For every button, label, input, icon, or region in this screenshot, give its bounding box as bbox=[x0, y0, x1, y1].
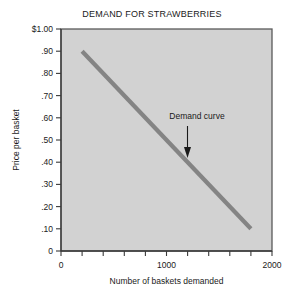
x-tick-label: 0 bbox=[59, 260, 64, 270]
y-tick-label: .40 bbox=[41, 157, 53, 167]
y-tick-label: .60 bbox=[41, 113, 53, 123]
x-tick-label: 1000 bbox=[157, 260, 176, 270]
demand-for-strawberries-chart: DEMAND FOR STRAWBERRIES 0 .10 .20 .30 .4… bbox=[0, 0, 300, 302]
x-tick-label: 2000 bbox=[263, 260, 282, 270]
chart-title: DEMAND FOR STRAWBERRIES bbox=[82, 9, 221, 19]
demand-curve-annotation-label: Demand curve bbox=[169, 111, 225, 121]
y-tick-label: .90 bbox=[41, 46, 53, 56]
x-axis-title: Number of baskets demanded bbox=[110, 276, 224, 286]
y-tick-label: .20 bbox=[41, 202, 53, 212]
y-tick-label: 0 bbox=[48, 246, 53, 256]
y-tick-label: .50 bbox=[41, 135, 53, 145]
y-axis-title: Price per basket bbox=[11, 109, 21, 171]
y-tick-label: .30 bbox=[41, 179, 53, 189]
y-tick-label: .70 bbox=[41, 91, 53, 101]
y-tick-label: .10 bbox=[41, 224, 53, 234]
y-tick-label: .80 bbox=[41, 68, 53, 78]
y-tick-label: $1.00 bbox=[32, 24, 54, 34]
